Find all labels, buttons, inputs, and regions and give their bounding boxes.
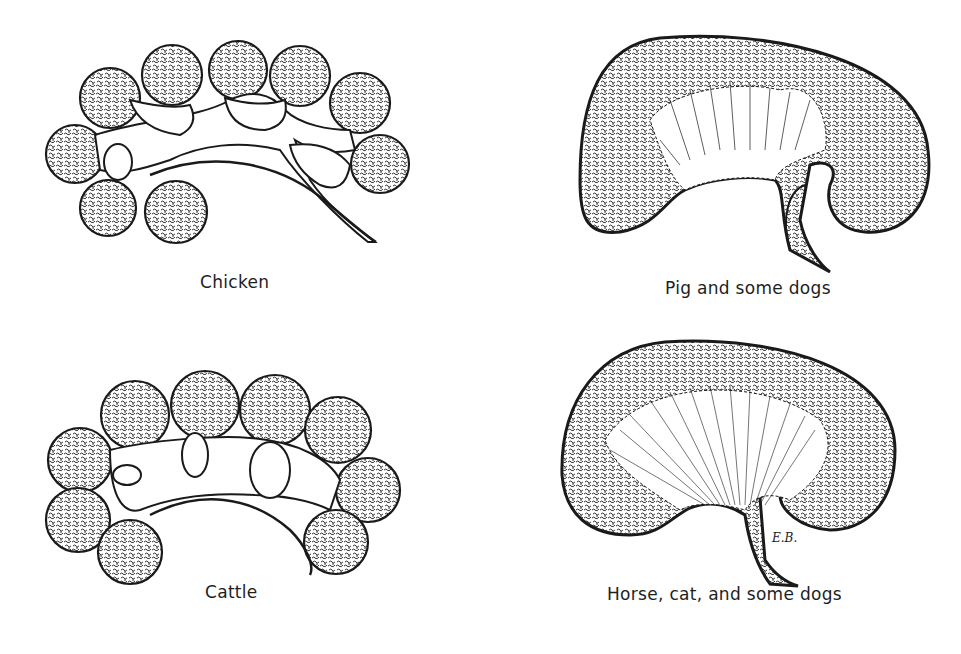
artist-signature: E.B.	[771, 531, 797, 545]
panel-horse: E.B. Horse, cat, and some dogs	[480, 320, 961, 654]
cattle-kidney-drawing	[0, 320, 480, 654]
label-horse: Horse, cat, and some dogs	[607, 584, 842, 604]
label-chicken: Chicken	[200, 272, 269, 292]
panel-pig: Pig and some dogs	[480, 0, 961, 320]
panel-chicken: Chicken	[0, 0, 480, 320]
label-pig: Pig and some dogs	[665, 278, 831, 298]
panel-cattle: Cattle	[0, 320, 480, 654]
label-cattle: Cattle	[205, 582, 258, 602]
pig-kidney-drawing	[480, 0, 961, 320]
